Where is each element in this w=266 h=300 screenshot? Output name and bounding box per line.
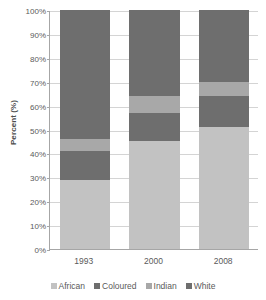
legend-item[interactable]: Indian [146, 281, 177, 291]
stacked-bar-chart: Percent (%) 0%10%20%30%40%50%60%70%80%90… [0, 0, 266, 300]
y-axis-tick-label: 30% [14, 174, 46, 183]
legend-swatch-icon [186, 283, 192, 289]
legend-swatch-icon [94, 283, 100, 289]
y-axis-tick-label: 90% [14, 30, 46, 39]
x-axis-tick-label: 2000 [119, 256, 189, 266]
bar-group[interactable] [199, 11, 249, 249]
y-axis-tick-label: 70% [14, 78, 46, 87]
bar-segment[interactable] [199, 127, 249, 249]
bar-segment[interactable] [60, 180, 110, 249]
bar-segment[interactable] [60, 10, 110, 139]
bar-group[interactable] [129, 11, 179, 249]
x-axis-tick-label: 1993 [49, 256, 119, 266]
bar-segment[interactable] [129, 113, 179, 142]
legend-label: White [194, 281, 216, 291]
bar-segment[interactable] [129, 10, 179, 96]
bar-segment[interactable] [199, 96, 249, 127]
legend-item[interactable]: African [51, 281, 85, 291]
y-axis-tick-label: 80% [14, 54, 46, 63]
legend-item[interactable]: White [186, 281, 216, 291]
bar-segment[interactable] [199, 10, 249, 82]
bar-group[interactable] [60, 11, 110, 249]
x-axis-tick-labels: 199320002008 [49, 256, 258, 272]
y-axis-tick-label: 50% [14, 126, 46, 135]
bar-segment[interactable] [199, 82, 249, 96]
legend-label: Coloured [102, 281, 137, 291]
bar-segment[interactable] [129, 141, 179, 249]
legend-swatch-icon [146, 283, 152, 289]
legend-label: Indian [154, 281, 177, 291]
legend-item[interactable]: Coloured [94, 281, 137, 291]
y-axis-tick-labels: 0%10%20%30%40%50%60%70%80%90%100% [14, 11, 46, 250]
x-axis-tick-label: 2008 [188, 256, 258, 266]
y-axis-tick-label: 0% [14, 246, 46, 255]
bar-segment[interactable] [60, 139, 110, 151]
y-axis-tick-label: 10% [14, 222, 46, 231]
legend-label: African [59, 281, 85, 291]
chart-legend: AfricanColouredIndianWhite [0, 281, 266, 291]
y-axis-tick-label: 60% [14, 102, 46, 111]
plot-area [49, 11, 258, 250]
y-axis-tickmark [47, 250, 50, 251]
y-axis-tick-label: 20% [14, 198, 46, 207]
bar-segment[interactable] [60, 151, 110, 180]
y-axis-tick-label: 100% [14, 7, 46, 16]
bars-layer [50, 11, 258, 249]
legend-swatch-icon [51, 283, 57, 289]
y-axis-tick-label: 40% [14, 150, 46, 159]
bar-segment[interactable] [129, 96, 179, 113]
